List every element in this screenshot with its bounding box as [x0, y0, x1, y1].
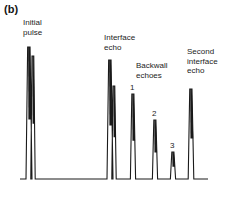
peak-shading — [28, 47, 193, 167]
echo-number-3: 3 — [170, 141, 174, 150]
trace-path-group — [20, 47, 208, 179]
echo-number-1: 1 — [130, 83, 134, 92]
annotation-interface-echo: Interface echo — [104, 33, 135, 52]
annotation-initial-pulse: Initial pulse — [23, 18, 42, 37]
echo-number-2: 2 — [152, 109, 156, 118]
annotation-second-interface-echo: Second interface echo — [187, 47, 218, 76]
figure-panel-b: (b) Initial pulse Interface echo Backwal… — [0, 0, 231, 201]
annotation-backwall-echoes: Backwall echoes — [136, 61, 168, 80]
